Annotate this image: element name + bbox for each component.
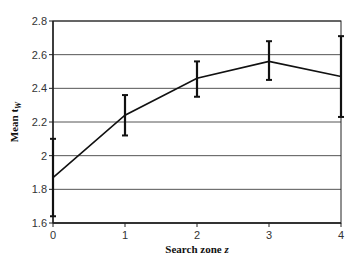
x-tick-label: 2	[194, 229, 200, 241]
x-tick-label: 1	[122, 229, 128, 241]
y-tick-label: 1.6	[32, 217, 47, 229]
y-axis-title: Mean tW	[8, 101, 23, 142]
x-tick-label: 4	[338, 229, 344, 241]
line-chart: 1.61.822.22.42.62.8 01234 Search zone z …	[0, 0, 356, 267]
error-bar	[50, 139, 56, 216]
y-tick-label: 1.8	[32, 183, 47, 195]
y-tick-label: 2.6	[32, 49, 47, 61]
y-tick-label: 2	[41, 150, 47, 162]
y-tick-label: 2.2	[32, 116, 47, 128]
x-axis-title: Search zone z	[165, 243, 229, 255]
y-tick-label: 2.8	[32, 15, 47, 27]
error-bar	[122, 95, 128, 135]
y-tick-label: 2.4	[32, 82, 47, 94]
gridlines	[53, 21, 341, 223]
error-bar	[266, 41, 272, 80]
x-axis-ticks: 01234	[50, 223, 344, 241]
y-axis-ticks: 1.61.822.22.42.62.8	[32, 15, 53, 229]
x-tick-label: 3	[266, 229, 272, 241]
x-tick-label: 0	[50, 229, 56, 241]
